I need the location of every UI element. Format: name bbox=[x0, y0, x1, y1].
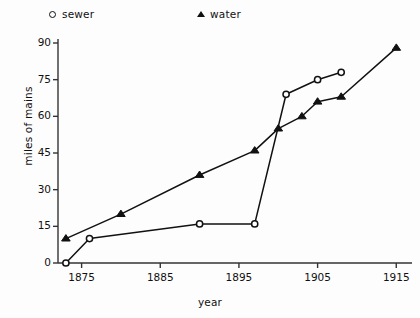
series-line-water bbox=[66, 48, 396, 239]
data-point-sewer bbox=[338, 69, 344, 75]
data-point-sewer bbox=[86, 236, 92, 242]
series-line-sewer bbox=[66, 72, 341, 263]
data-point-sewer bbox=[283, 91, 289, 97]
data-point-water bbox=[392, 44, 401, 50]
chart-plot-area bbox=[0, 0, 420, 318]
data-point-sewer bbox=[315, 77, 321, 83]
chart-container: sewer water miles of mains year 01530456… bbox=[0, 0, 420, 318]
data-point-sewer bbox=[63, 260, 69, 266]
data-point-sewer bbox=[252, 221, 258, 227]
data-point-sewer bbox=[197, 221, 203, 227]
